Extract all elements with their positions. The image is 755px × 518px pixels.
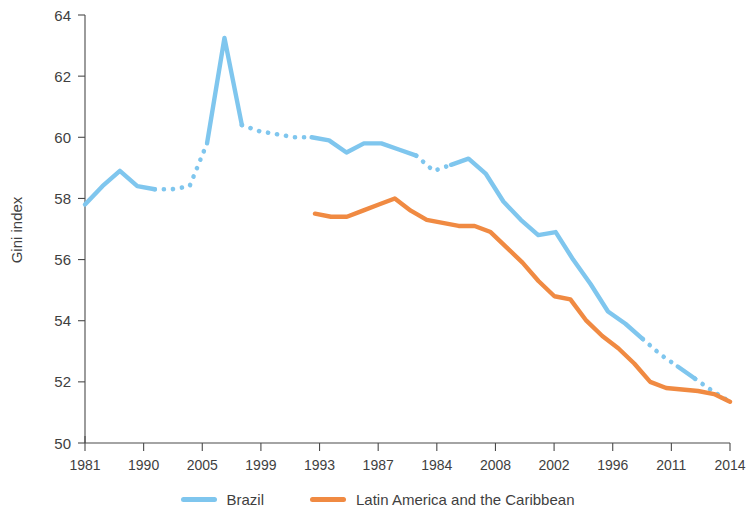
x-axis-tick-label: 1981 (69, 457, 100, 473)
series-line-brazil (643, 339, 678, 367)
series-line-brazil (312, 137, 417, 155)
x-axis: 1981199020051999199319871984200820021996… (69, 436, 745, 473)
chart-plot-area: 5052545658606264 19811990200519991993198… (0, 0, 755, 518)
legend-color-swatch (181, 497, 217, 502)
x-axis-tick-label: 2005 (187, 457, 218, 473)
x-axis-tick-label: 1996 (597, 457, 628, 473)
y-axis: 5052545658606264 (54, 7, 85, 452)
x-axis-tick-label: 2014 (714, 457, 745, 473)
legend-item[interactable]: Latin America and the Caribbean (310, 492, 574, 507)
y-axis-tick-label: 52 (54, 373, 71, 390)
gini-index-line-chart: 5052545658606264 19811990200519991993198… (0, 0, 755, 518)
x-axis-tick-label: 1999 (245, 457, 276, 473)
y-axis-title: Gini index (8, 196, 25, 263)
y-axis-tick-label: 64 (54, 7, 71, 24)
x-axis-tick-label: 1987 (363, 457, 394, 473)
series-line-brazil (85, 171, 155, 205)
y-axis-tick-label: 56 (54, 251, 71, 268)
series-line-brazil (678, 367, 695, 379)
series-line-brazil (155, 143, 207, 189)
data-series-group (85, 38, 730, 402)
y-axis-tick-label: 62 (54, 68, 71, 85)
series-line-brazil (207, 38, 242, 143)
legend-label: Latin America and the Caribbean (356, 492, 574, 507)
series-line-brazil (416, 156, 451, 171)
series-line-latin-america-and-the-caribbean (315, 198, 730, 401)
x-axis-tick-label: 1990 (128, 457, 159, 473)
x-axis-tick-label: 2008 (480, 457, 511, 473)
legend-item[interactable]: Brazil (181, 492, 265, 507)
legend-color-swatch (310, 497, 346, 502)
x-axis-tick-label: 2011 (656, 457, 686, 473)
series-line-brazil (242, 125, 312, 137)
y-axis-tick-label: 54 (54, 312, 71, 329)
x-axis-tick-label: 2002 (539, 457, 570, 473)
legend-label: Brazil (227, 492, 265, 507)
y-axis-tick-label: 60 (54, 129, 71, 146)
x-axis-tick-label: 1993 (304, 457, 335, 473)
y-axis-tick-label: 50 (54, 435, 71, 452)
chart-legend: BrazilLatin America and the Caribbean (0, 492, 755, 507)
y-axis-tick-label: 58 (54, 190, 71, 207)
series-line-brazil (451, 159, 643, 339)
x-axis-tick-label: 1984 (421, 457, 452, 473)
